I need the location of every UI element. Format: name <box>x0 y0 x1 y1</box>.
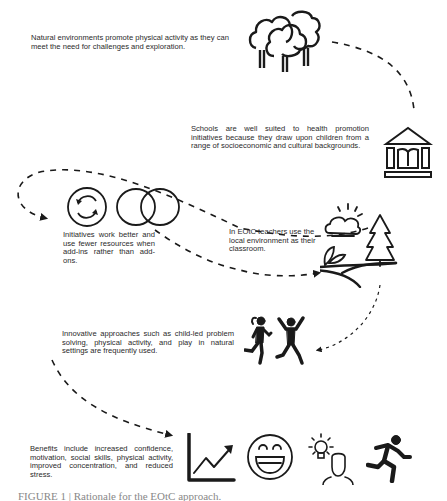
step-schools-text: Schools are well suited to health promot… <box>191 125 369 151</box>
trees-icon <box>246 8 330 72</box>
connector-trees-to-school <box>332 42 414 110</box>
step-benefits-text: Benefits include increased confidence, m… <box>30 445 173 479</box>
step-innovative-text: Innovative approaches such as child-led … <box>62 330 234 356</box>
landscape-icon <box>320 203 410 288</box>
children-playing-icon <box>244 315 308 367</box>
school-building-icon <box>383 126 433 178</box>
growth-chart-icon <box>186 433 236 483</box>
figure-caption: FIGURE 1 | Rationale for the EOtC approa… <box>18 490 221 501</box>
smiley-face-icon <box>246 433 294 481</box>
step-natural-environments-text: Natural environments promote physical ac… <box>31 34 246 51</box>
cycle-arrows-icon <box>66 186 108 228</box>
running-person-icon <box>366 435 412 483</box>
step-eotc-text: In EOtC teachers use the local environme… <box>229 228 319 254</box>
connector-innovative-to-benefits <box>52 360 170 435</box>
venn-overlap-icon <box>114 186 182 228</box>
connector-eotc-to-innovative <box>318 285 380 350</box>
idea-person-icon <box>307 433 357 485</box>
step-addins-text: Initiatives work better and use fewer re… <box>63 231 155 265</box>
